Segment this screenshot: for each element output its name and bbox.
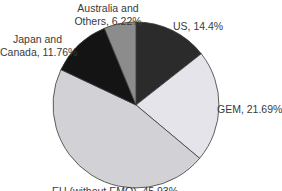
label-japan-line2: Canada, 11.76% [0,46,75,59]
label-australia-line1: Australia and [66,2,150,15]
label-japan-line1: Japan and [0,33,75,46]
pie-chart [0,0,282,191]
label-australia-line2: Others, 6.22% [66,15,150,28]
label-us: US, 14.4% [173,20,223,33]
label-australia-others: Australia and Others, 6.22% [66,2,150,28]
label-eu: EU (without EMQ), 45.93% [52,185,178,191]
label-japan-canada: Japan and Canada, 11.76% [0,33,75,59]
label-gem: GEM, 21.69% [217,103,282,116]
